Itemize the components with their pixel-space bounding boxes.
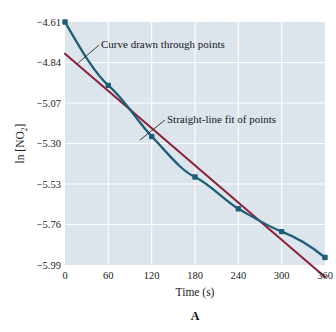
y-axis-title-suffix: ] [14,124,26,128]
data-point [192,174,197,179]
y-tick-label: −5.99 [37,260,61,271]
y-axis-title: ln [NO2] [14,124,29,164]
x-axis-tick-labels: 0 60 120 180 240 300 360 [62,270,333,281]
data-point [62,19,67,24]
x-tick-label: 0 [62,270,67,281]
panel-letter: A [191,309,200,323]
fit-annotation-text: Straight-line fit of points [167,113,276,125]
data-point [279,229,284,234]
x-tick-label: 240 [230,270,246,281]
y-tick-label: −5.53 [37,179,61,190]
data-point [106,83,111,88]
y-tick-label: −4.61 [37,17,61,28]
data-point [236,206,241,211]
data-point [149,134,154,139]
y-tick-label: −5.07 [37,98,61,109]
y-axis-tick-labels: −4.61 −4.84 −5.07 −5.30 −5.53 −5.76 −5.9… [37,17,62,271]
y-tick-label: −4.84 [37,57,62,68]
x-tick-label: 120 [144,270,160,281]
y-tick-label: −5.30 [37,138,61,149]
x-tick-label: 360 [317,270,333,281]
y-tick-label: −5.76 [37,219,61,230]
x-axis-title: Time (s) [176,286,215,299]
curve-annotation-text: Curve drawn through points [101,38,225,50]
data-point [322,255,327,260]
x-tick-label: 180 [187,270,203,281]
x-tick-label: 60 [103,270,114,281]
x-tick-label: 300 [274,270,290,281]
y-axis-title-prefix: ln [NO [14,131,26,163]
figure-panel-a: Curve drawn through points Straight-line… [0,0,336,332]
